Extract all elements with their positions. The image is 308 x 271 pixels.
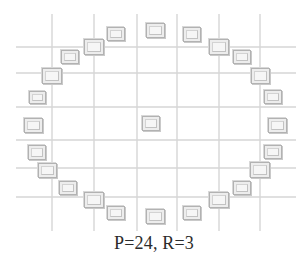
sampling-point-8 [107,27,125,41]
sampling-point-15 [38,163,57,178]
sampling-point-20 [183,206,201,220]
sampling-point-6 [183,27,201,42]
lbp-neighborhood-figure: P=24, R=3 [0,0,308,271]
sampling-point-7 [146,23,165,38]
sampling-point-13 [24,118,43,133]
sampling-point-2 [264,90,282,104]
sampling-point-19 [146,209,165,224]
sampling-point-23 [250,162,270,178]
plot-area [0,0,308,232]
sampling-point-22 [233,181,251,195]
sampling-point-11 [42,68,62,84]
sampling-point-14 [28,145,46,160]
sampling-point-18 [107,206,125,220]
center-pixel-marker [142,116,160,131]
sampling-point-21 [209,192,229,208]
sampling-point-12 [29,91,46,104]
sampling-point-9 [84,39,104,55]
sampling-point-1 [268,118,287,133]
sampling-point-17 [84,192,104,208]
sampling-point-4 [233,50,251,64]
sampling-point-16 [59,181,77,195]
sampling-point-10 [61,50,79,64]
figure-caption: P=24, R=3 [0,233,308,254]
sampling-point-24 [264,145,282,159]
sampling-point-5 [209,39,229,55]
sampling-point-3 [251,68,270,84]
